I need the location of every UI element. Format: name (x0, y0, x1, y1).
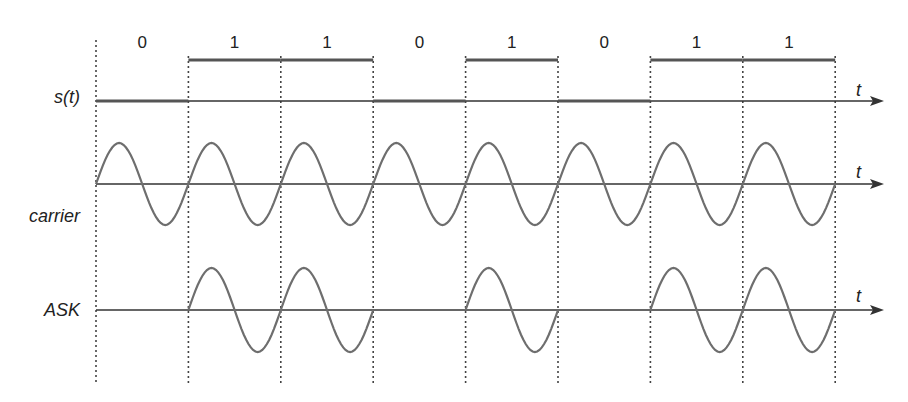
ask-row (96, 268, 884, 352)
bit-label: 1 (230, 33, 239, 52)
carrier-row (96, 143, 884, 225)
time-axis-label-signal: t (856, 80, 862, 100)
bit-label: 1 (507, 33, 516, 52)
ask-label: ASK (43, 300, 81, 320)
ask-modulation-diagram: 01101011 s(t) carrier ASK t t t (0, 0, 908, 402)
bit-label: 0 (415, 33, 424, 52)
signal-row (96, 60, 884, 106)
bit-label: 0 (137, 33, 146, 52)
bit-label: 1 (692, 33, 701, 52)
time-axis-label-carrier: t (856, 162, 862, 182)
bit-boundary-lines (96, 40, 835, 385)
time-axis-label-ask: t (856, 286, 862, 306)
bit-label: 0 (599, 33, 608, 52)
bit-label: 1 (784, 33, 793, 52)
bit-labels: 01101011 (137, 33, 793, 52)
bit-label: 1 (322, 33, 331, 52)
carrier-label: carrier (29, 206, 81, 226)
signal-label: s(t) (54, 87, 80, 107)
